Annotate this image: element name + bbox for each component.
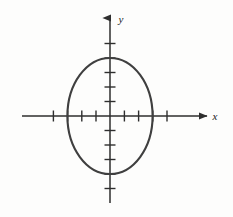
- y-axis-label: y: [118, 13, 124, 25]
- x-axis-group: [22, 111, 207, 122]
- ellipse-figure: x y: [0, 0, 233, 217]
- x-axis-label: x: [212, 110, 218, 122]
- graph-canvas: x y: [0, 0, 233, 217]
- y-axis-group: [105, 18, 116, 203]
